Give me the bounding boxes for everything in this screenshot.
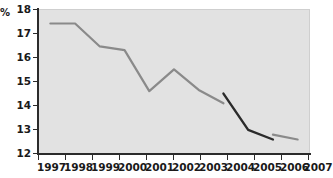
x-axis-label: 2007	[303, 162, 332, 173]
x-axis-tick	[173, 155, 174, 160]
x-axis-label: 2001	[145, 162, 174, 173]
y-axis-tick	[33, 81, 38, 82]
y-axis-tick	[33, 9, 38, 10]
y-axis-label: 13	[10, 124, 31, 134]
y-axis-unit-label: %	[0, 8, 10, 18]
x-axis-tick	[308, 155, 309, 160]
x-axis-label: 1999	[91, 162, 120, 173]
x-axis-tick	[227, 155, 228, 160]
y-axis-tick	[33, 129, 38, 130]
x-axis-label: 2005	[253, 162, 282, 173]
x-axis-tick	[119, 155, 120, 160]
x-axis-tick	[146, 155, 147, 160]
x-axis-tick	[92, 155, 93, 160]
y-axis-label: 17	[10, 28, 31, 38]
x-axis-tick	[38, 155, 39, 160]
x-axis-label: 2002	[172, 162, 201, 173]
y-axis-tick	[33, 33, 38, 34]
x-axis-tick	[281, 155, 282, 160]
x-axis-label: 2003	[199, 162, 228, 173]
y-axis-tick	[33, 105, 38, 106]
y-axis-tick	[33, 57, 38, 58]
plot-area	[38, 9, 310, 154]
y-axis-tick	[33, 153, 38, 154]
x-axis-label: 1997	[37, 162, 66, 173]
x-axis-line	[37, 153, 311, 155]
y-axis-label: 15	[10, 76, 31, 86]
x-axis-tick	[254, 155, 255, 160]
x-axis-label: 2000	[118, 162, 147, 173]
x-axis-label: 2004	[226, 162, 255, 173]
y-axis-label: 16	[10, 52, 31, 62]
y-axis-label: 14	[10, 100, 31, 110]
x-axis-tick	[65, 155, 66, 160]
y-axis-label: 18	[10, 4, 31, 14]
y-axis-label: 12	[10, 148, 31, 158]
x-axis-tick	[200, 155, 201, 160]
x-axis-label: 1998	[64, 162, 93, 173]
